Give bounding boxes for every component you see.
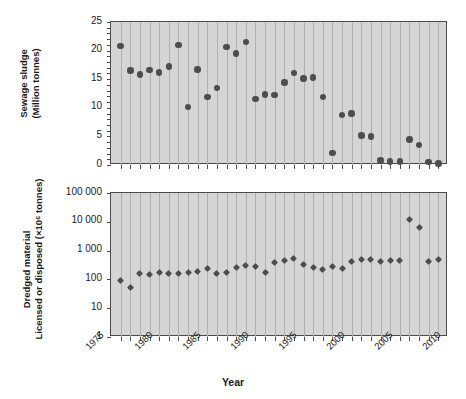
gridline-vertical (284, 22, 285, 165)
y-axis-minor-tick (107, 108, 111, 109)
gridline-vertical (429, 22, 430, 165)
gridline-vertical (419, 193, 420, 337)
y-axis-minor-tick (107, 119, 111, 120)
data-point (137, 71, 144, 78)
data-point (329, 150, 336, 157)
x-axis-tick (409, 337, 410, 341)
x-axis-tick (198, 165, 199, 169)
y-axis-minor-tick (107, 131, 111, 132)
gridline-vertical (400, 22, 401, 165)
y-axis-major-tick (107, 337, 111, 338)
y-axis-minor-tick (107, 148, 111, 149)
gridline-vertical (438, 22, 439, 165)
data-point (136, 270, 143, 277)
gridline-vertical (178, 193, 179, 337)
data-point (127, 67, 134, 74)
data-point (146, 67, 153, 74)
x-axis-tick (265, 165, 266, 169)
y-axis-tick-label: 25 (36, 15, 102, 26)
bottom-plot-area (110, 192, 447, 336)
data-point (156, 69, 163, 76)
x-axis-tick (284, 165, 285, 169)
data-point (406, 136, 413, 143)
data-point (252, 96, 259, 103)
data-point (406, 216, 413, 223)
data-point (223, 269, 230, 276)
gridline-vertical (429, 193, 430, 337)
y-axis-minor-tick (107, 96, 111, 97)
data-point (329, 263, 336, 270)
y-axis-minor-tick (107, 39, 111, 40)
data-point (425, 159, 432, 166)
data-point (339, 265, 346, 272)
y-axis-minor-tick (107, 142, 111, 143)
data-point (396, 257, 403, 264)
y-axis-major-tick (107, 308, 111, 309)
data-point (300, 75, 307, 82)
gridline-vertical (150, 193, 151, 337)
y-axis-minor-tick (107, 154, 111, 155)
x-axis-tick (217, 337, 218, 341)
gridline-vertical (198, 22, 199, 165)
x-axis-tick (255, 337, 256, 341)
data-point (290, 255, 297, 262)
data-point (242, 262, 249, 269)
data-point (223, 44, 230, 51)
x-axis-tick (275, 165, 276, 169)
y-axis-minor-tick (107, 79, 111, 80)
data-point (416, 142, 423, 149)
y-axis-tick-label: 10 (36, 301, 102, 312)
x-axis-tick (371, 337, 372, 341)
data-point (377, 157, 384, 164)
y-axis-minor-tick (107, 136, 111, 137)
x-axis-tick (140, 165, 141, 169)
x-axis-tick (400, 165, 401, 169)
data-point (243, 39, 250, 46)
x-axis-tick (313, 337, 314, 341)
x-axis-tick (294, 165, 295, 169)
data-point (271, 259, 278, 266)
x-axis-tick (390, 165, 391, 169)
gridline-vertical (409, 22, 410, 165)
x-axis-tick (217, 165, 218, 169)
x-axis-tick (130, 165, 131, 169)
x-axis-tick (381, 165, 382, 169)
y-axis-minor-tick (107, 28, 111, 29)
y-axis-major-tick (107, 279, 111, 280)
y-axis-tick-label: 5 (36, 129, 102, 140)
data-point (348, 258, 355, 265)
data-point (233, 264, 240, 271)
data-point (310, 74, 317, 81)
gridline-vertical (121, 193, 122, 337)
x-axis-tick (169, 337, 170, 341)
top-plot-area (110, 21, 447, 164)
y-axis-minor-tick (107, 114, 111, 115)
data-point (271, 92, 278, 99)
x-axis-title: Year (0, 376, 466, 388)
x-axis-tick (304, 337, 305, 341)
data-point (358, 256, 365, 263)
x-axis-tick (121, 165, 122, 169)
y-axis-minor-tick (107, 22, 111, 23)
data-point (204, 265, 211, 272)
bottom-y-axis-title-line1: Dredged material (21, 200, 33, 340)
y-axis-minor-tick (107, 62, 111, 63)
y-axis-tick-label: 10 (36, 100, 102, 111)
data-point (339, 112, 346, 119)
data-point (397, 158, 404, 165)
x-axis-tick (352, 165, 353, 169)
data-point (262, 91, 269, 98)
data-point (175, 270, 182, 277)
x-axis-tick (371, 165, 372, 169)
x-axis-tick (227, 337, 228, 341)
x-axis-tick (332, 165, 333, 169)
figure: Sewage sludge (Million tonnes) 051015202… (0, 0, 466, 399)
gridline-vertical (150, 22, 151, 165)
data-point (156, 269, 163, 276)
gridline-vertical (304, 22, 305, 165)
y-axis-minor-tick (107, 51, 111, 52)
data-point (387, 158, 394, 165)
data-point (175, 42, 182, 49)
data-point (165, 270, 172, 277)
y-axis-tick-label: 100 000 (36, 186, 102, 197)
